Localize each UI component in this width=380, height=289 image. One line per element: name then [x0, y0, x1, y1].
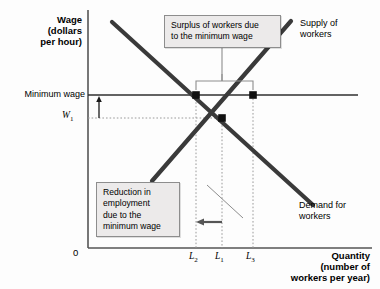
reduction-callout: Reduction in employment due to the minim…	[96, 182, 180, 237]
employment-reduction-arrow-head	[196, 218, 204, 225]
surplus-callout: Surplus of workers due to the minimum wa…	[164, 15, 281, 48]
demand-curve-label: Demand for workers	[299, 200, 377, 221]
point-supply-at-minimum-wage	[249, 91, 257, 99]
l2-subscript: 2	[194, 256, 198, 264]
l1-label: L1	[215, 251, 224, 264]
l2-label: L2	[189, 251, 198, 264]
minimum-wage-diagram: Wage (dollars per hour) Quantity (number…	[0, 0, 380, 289]
l1-subscript: 1	[220, 256, 224, 264]
x-axis-title: Quantity (number of workers per year)	[250, 250, 370, 284]
point-equilibrium	[218, 114, 226, 122]
w1-symbol: W	[62, 110, 70, 120]
point-demand-at-minimum-wage	[192, 91, 200, 99]
minimum-wage-label: Minimum wage	[5, 89, 85, 100]
y-axis-title: Wage (dollars per hour)	[14, 14, 82, 48]
w1-label: W1	[62, 110, 73, 123]
l3-label: L3	[246, 251, 255, 264]
w1-subscript: 1	[70, 115, 74, 123]
reduction-leader-line	[207, 185, 243, 218]
origin-label: 0	[73, 247, 78, 258]
wage-increase-arrow-head	[96, 96, 102, 102]
l3-subscript: 3	[251, 256, 255, 264]
supply-curve-label: Supply of workers	[300, 18, 374, 39]
